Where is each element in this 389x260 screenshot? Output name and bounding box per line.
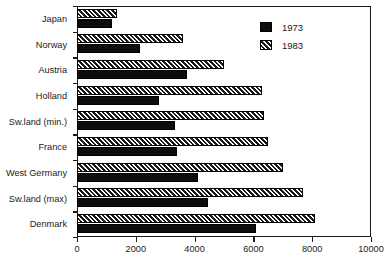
value-tick (253, 237, 254, 242)
legend-label-1983: 1983 (282, 40, 303, 51)
value-tick-label: 10000 (341, 244, 389, 254)
value-tick-label: 0 (47, 244, 107, 254)
value-tick (77, 237, 78, 242)
value-tick-label: 4000 (165, 244, 225, 254)
value-tick-label: 6000 (223, 244, 283, 254)
value-tick (136, 237, 137, 242)
value-tick (371, 237, 372, 242)
value-tick (312, 237, 313, 242)
value-tick (195, 237, 196, 242)
legend-item-1973: 1973 (260, 20, 303, 34)
chart-legend: 1973 1983 (260, 20, 303, 56)
value-tick-label: 8000 (282, 244, 342, 254)
solid-swatch-icon (260, 22, 272, 32)
legend-label-1973: 1973 (282, 22, 303, 33)
value-tick-label: 2000 (106, 244, 166, 254)
legend-item-1983: 1983 (260, 38, 303, 52)
hatched-swatch-icon (260, 40, 272, 50)
